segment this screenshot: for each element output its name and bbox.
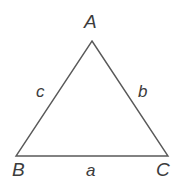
vertex-label-b: B [12,160,25,179]
side-label-c: c [36,83,45,100]
side-label-a: a [86,162,95,179]
vertex-label-c: C [156,160,170,179]
vertex-label-a: A [84,12,97,31]
side-label-b: b [138,83,147,100]
triangle-figure: A B C a b c [0,0,183,183]
